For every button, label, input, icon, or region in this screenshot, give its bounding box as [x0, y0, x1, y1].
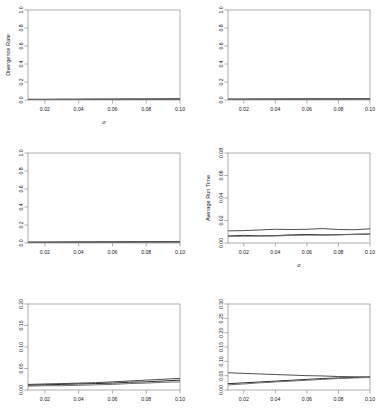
x-axis-tick-label: 0.02 — [239, 249, 249, 255]
y-axis-tick-label: 0.00 — [218, 238, 224, 248]
x-axis-tick-label: 0.08 — [141, 396, 151, 402]
y-axis-tick-label: 0.4 — [18, 203, 24, 210]
x-axis-tick-label: 0.04 — [270, 396, 280, 402]
plot-frame — [28, 304, 180, 390]
y-axis-tick-label: 0.02 — [218, 215, 224, 225]
x-axis-tick-label: 0.10 — [365, 106, 375, 112]
x-axis-tick-label: 0.04 — [74, 106, 84, 112]
y-axis-tick-label: 0.05 — [18, 363, 24, 373]
x-axis-tick-label: 0.04 — [74, 396, 84, 402]
x-axis-tick-label: 0.02 — [239, 106, 249, 112]
y-axis-tick-label: 0.2 — [218, 78, 224, 85]
y-axis-tick-label: 0.8 — [18, 24, 24, 31]
y-axis-tick-label: 0.6 — [218, 42, 224, 49]
y-axis-tick-label: 0.30 — [218, 299, 224, 309]
y-axis-tick-label: 0.8 — [18, 167, 24, 174]
panel-top-left: 0.020.040.060.080.100.00.20.40.60.81.0σD… — [0, 0, 190, 140]
y-axis-tick-label: 0.0 — [18, 239, 24, 246]
y-axis-title: Divergence Rate — [5, 34, 11, 76]
x-axis-tick-label: 0.04 — [270, 249, 280, 255]
x-axis-tick-label: 0.04 — [74, 249, 84, 255]
x-axis-tick-label: 0.06 — [302, 106, 312, 112]
plot-frame — [228, 10, 370, 100]
x-axis-tick-label: 0.02 — [40, 396, 50, 402]
y-axis-tick-label: 1.0 — [218, 6, 224, 13]
y-axis-tick-label: 0.0 — [218, 96, 224, 103]
x-axis-tick-label: 0.08 — [333, 106, 343, 112]
x-axis-title: σ — [297, 262, 301, 268]
x-axis-tick-label: 0.10 — [175, 249, 185, 255]
data-line-series-3 — [228, 377, 370, 384]
y-axis-tick-label: 0.2 — [18, 78, 24, 85]
x-axis-title: σ — [102, 119, 106, 125]
x-axis-tick-label: 0.10 — [365, 396, 375, 402]
x-axis-tick-label: 0.08 — [333, 396, 343, 402]
y-axis-title: Average Run Time — [205, 175, 211, 221]
y-axis-tick-label: 0.06 — [218, 170, 224, 180]
y-axis-tick-label: 0.10 — [218, 356, 224, 366]
y-axis-tick-label: 0.20 — [18, 299, 24, 309]
data-line-series-1 — [228, 373, 370, 377]
y-axis-tick-label: 0.00 — [18, 385, 24, 395]
y-axis-tick-label: 0.6 — [18, 42, 24, 49]
x-axis-tick-label: 0.02 — [239, 396, 249, 402]
x-axis-tick-label: 0.08 — [141, 249, 151, 255]
x-axis-tick-label: 0.08 — [333, 249, 343, 255]
y-axis-tick-label: 0.0 — [18, 96, 24, 103]
x-axis-tick-label: 0.06 — [302, 396, 312, 402]
y-axis-tick-label: 0.15 — [218, 342, 224, 352]
y-axis-tick-label: 0.05 — [218, 371, 224, 381]
y-axis-tick-label: 1.0 — [18, 6, 24, 13]
x-axis-tick-label: 0.02 — [40, 249, 50, 255]
y-axis-tick-label: 0.08 — [218, 148, 224, 158]
y-axis-tick-label: 0.15 — [18, 320, 24, 330]
x-axis-tick-label: 0.02 — [40, 106, 50, 112]
x-axis-tick-label: 0.08 — [141, 106, 151, 112]
y-axis-tick-label: 0.6 — [18, 185, 24, 192]
plot-frame — [28, 10, 180, 100]
x-axis-tick-label: 0.06 — [302, 249, 312, 255]
panel-middle-left: 0.020.040.060.080.100.00.20.40.60.81.0 — [0, 139, 190, 279]
y-axis-tick-label: 0.00 — [218, 385, 224, 395]
plot-frame — [28, 153, 180, 243]
x-axis-tick-label: 0.06 — [107, 106, 117, 112]
x-axis-tick-label: 0.10 — [175, 396, 185, 402]
panel-middle-right: 0.020.040.060.080.100.000.020.040.060.08… — [190, 139, 381, 279]
y-axis-tick-label: 0.10 — [18, 342, 24, 352]
x-axis-tick-label: 0.06 — [107, 249, 117, 255]
data-line-series-1 — [228, 229, 370, 231]
x-axis-tick-label: 0.04 — [270, 106, 280, 112]
x-axis-tick-label: 0.10 — [175, 106, 185, 112]
y-axis-tick-label: 0.25 — [218, 313, 224, 323]
y-axis-tick-label: 0.04 — [218, 193, 224, 203]
y-axis-tick-label: 0.8 — [218, 24, 224, 31]
panel-top-right: 0.020.040.060.080.100.00.20.40.60.81.0 — [190, 0, 381, 140]
panel-bottom-right: 0.020.040.060.080.100.000.050.100.150.20… — [190, 278, 381, 417]
y-axis-tick-label: 0.2 — [18, 221, 24, 228]
y-axis-tick-label: 0.4 — [18, 60, 24, 67]
y-axis-tick-label: 0.4 — [218, 60, 224, 67]
y-axis-tick-label: 0.20 — [218, 328, 224, 338]
panel-bottom-left: 0.020.040.060.080.100.000.050.100.150.20 — [0, 278, 190, 417]
y-axis-tick-label: 1.0 — [18, 149, 24, 156]
figure-canvas: 0.020.040.060.080.100.00.20.40.60.81.0σD… — [0, 0, 381, 417]
x-axis-tick-label: 0.10 — [365, 249, 375, 255]
x-axis-tick-label: 0.06 — [107, 396, 117, 402]
